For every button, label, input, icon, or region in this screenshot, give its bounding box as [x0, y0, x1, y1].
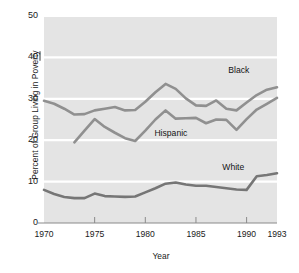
series-label-hispanic: Hispanic: [154, 128, 187, 138]
x-tick-label: 1980: [125, 229, 165, 239]
poverty-line-chart: 01020304050 197019751980198519901993 Bla…: [0, 0, 299, 273]
series-label-white: White: [222, 162, 244, 172]
x-tick-label: 1985: [176, 229, 216, 239]
series-label-black: Black: [228, 65, 249, 75]
y-axis-title: Percent of Group Living in Poverty: [30, 35, 40, 195]
y-tick-label: 0: [12, 217, 38, 227]
y-tick-label: 50: [12, 10, 38, 20]
x-tick-label: 1975: [75, 229, 115, 239]
x-tick-label: 1993: [257, 229, 297, 239]
x-axis-title: Year: [44, 251, 278, 261]
plot-background: [44, 16, 277, 223]
x-tick-label: 1970: [24, 229, 64, 239]
